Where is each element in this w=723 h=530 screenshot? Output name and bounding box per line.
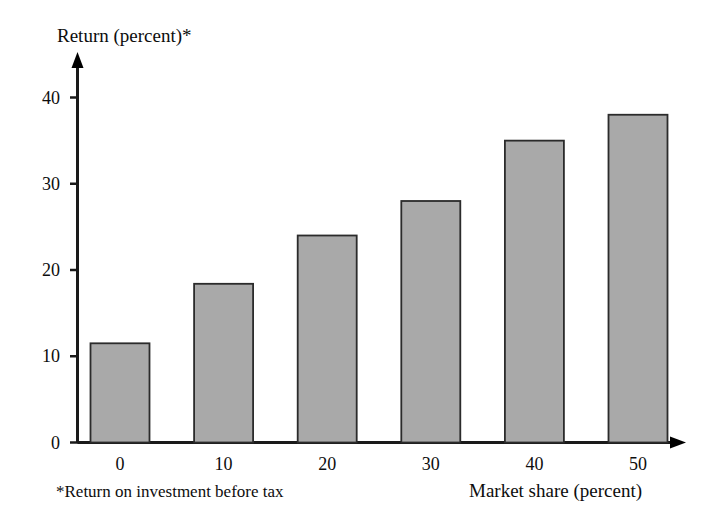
bar: [401, 201, 460, 443]
x-tick-label: 0: [100, 455, 140, 473]
y-tick-label: 0: [26, 434, 60, 452]
x-tick-label: 20: [307, 455, 347, 473]
x-axis-arrow-icon: [670, 437, 686, 449]
axes-group: [72, 52, 687, 449]
y-tick-label: 10: [26, 347, 60, 365]
bar-chart: Return (percent)* 010203040 01020304050 …: [0, 0, 723, 530]
x-tick-label: 30: [411, 455, 451, 473]
bar: [91, 343, 150, 442]
bar: [609, 115, 668, 443]
y-axis-arrow-icon: [72, 52, 84, 68]
bar: [298, 236, 357, 443]
x-axis-title: Market share (percent): [469, 481, 642, 500]
x-tick-label: 40: [514, 455, 554, 473]
bars-group: [91, 115, 668, 443]
y-tick-label: 30: [26, 175, 60, 193]
bar: [505, 141, 564, 443]
bar: [194, 284, 253, 443]
x-tick-label: 10: [204, 455, 244, 473]
chart-footnote: *Return on investment before tax: [56, 483, 284, 500]
x-tick-label: 50: [618, 455, 658, 473]
y-tick-label: 20: [26, 261, 60, 279]
y-tick-label: 40: [26, 89, 60, 107]
chart-canvas: [0, 0, 723, 530]
